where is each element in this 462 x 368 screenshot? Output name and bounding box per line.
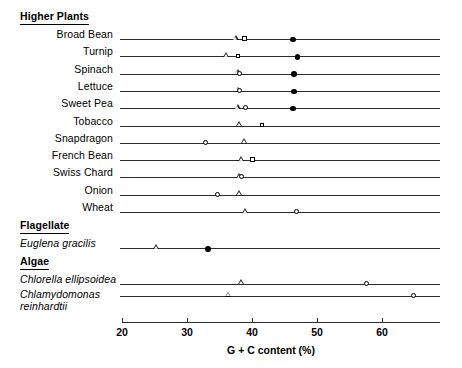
data-point-filled-circle xyxy=(290,106,296,112)
data-point-open-circle xyxy=(364,281,369,286)
data-point-open-square xyxy=(250,157,254,161)
row-baseline xyxy=(120,91,440,92)
data-row: Chlorella ellipsoidea xyxy=(0,273,462,289)
row-label: French Bean xyxy=(52,149,113,161)
data-point-open-triangle xyxy=(225,292,231,297)
data-point-open-triangle xyxy=(238,279,244,284)
data-point-open-circle xyxy=(237,71,242,76)
axis-tick-label: 50 xyxy=(311,326,323,338)
axis-tick xyxy=(252,318,253,323)
row-label: Tobacco xyxy=(73,115,113,127)
data-point-open-circle xyxy=(243,105,248,110)
data-row: Turnip xyxy=(0,45,462,61)
axis-tick-label: 60 xyxy=(376,326,388,338)
data-point-open-triangle xyxy=(242,208,248,213)
row-label: Onion xyxy=(84,184,113,196)
group-header-algae: Algae xyxy=(20,255,49,270)
data-row: Tobacco xyxy=(0,115,462,131)
data-point-open-triangle xyxy=(241,138,247,143)
axis-tick xyxy=(382,318,383,323)
group-header-underline xyxy=(20,233,69,234)
row-baseline xyxy=(120,108,440,109)
axis-tick-label: 30 xyxy=(181,326,193,338)
data-point-open-circle xyxy=(411,293,416,298)
data-point-open-triangle xyxy=(223,52,229,57)
row-baseline xyxy=(120,126,440,127)
group-header-underline xyxy=(20,269,49,270)
row-label: Turnip xyxy=(83,45,113,57)
group-header-label: Flagellate xyxy=(20,219,69,231)
data-point-filled-circle xyxy=(291,71,297,77)
axis-title: G + C content (%) xyxy=(227,344,315,356)
data-point-open-circle xyxy=(215,192,220,197)
axis-tick xyxy=(317,318,318,323)
row-baseline xyxy=(120,212,440,213)
row-label: Spinach xyxy=(74,63,113,75)
row-baseline xyxy=(120,143,440,144)
row-label: Chlamydomonas reinhardtii xyxy=(20,288,120,312)
data-point-open-triangle xyxy=(153,244,159,249)
axis-tick-label: 20 xyxy=(116,326,128,338)
data-point-open-square xyxy=(260,123,264,127)
row-baseline xyxy=(120,284,440,285)
row-baseline xyxy=(120,56,440,57)
row-label: Wheat xyxy=(82,201,113,213)
data-row: Snapdragon xyxy=(0,132,462,148)
row-baseline xyxy=(120,160,440,161)
axis-tick xyxy=(187,318,188,323)
row-baseline xyxy=(120,195,440,196)
data-point-open-triangle xyxy=(235,104,241,109)
axis-tick xyxy=(122,318,123,323)
row-label: Chlorella ellipsoidea xyxy=(20,273,116,285)
data-row: Euglena gracilis xyxy=(0,237,462,253)
group-header-flagellate: Flagellate xyxy=(20,219,69,234)
data-point-filled-circle xyxy=(295,54,301,60)
data-point-open-triangle xyxy=(238,156,244,161)
data-point-open-circle xyxy=(237,88,242,93)
data-row: Wheat xyxy=(0,201,462,217)
data-row: Onion xyxy=(0,184,462,200)
row-baseline xyxy=(120,74,440,75)
row-baseline xyxy=(120,248,440,249)
data-row: Chlamydomonas reinhardtii xyxy=(0,290,462,306)
group-header-label: Algae xyxy=(20,255,49,267)
axis-tick-label: 40 xyxy=(246,326,258,338)
data-row: Spinach xyxy=(0,63,462,79)
row-label: Euglena gracilis xyxy=(20,237,96,249)
data-point-filled-circle xyxy=(205,246,211,252)
data-point-open-circle xyxy=(239,174,244,179)
gc-content-chart: Higher PlantsBroad BeanTurnipSpinachLett… xyxy=(0,0,462,368)
row-label: Lettuce xyxy=(78,80,113,92)
row-label: Swiss Chard xyxy=(53,166,113,178)
data-point-open-circle xyxy=(294,209,299,214)
data-row: Swiss Chard xyxy=(0,166,462,182)
row-label: Sweet Pea xyxy=(61,97,113,109)
row-baseline xyxy=(120,177,440,178)
data-point-open-square xyxy=(236,54,240,58)
row-label: Snapdragon xyxy=(55,132,113,144)
data-point-open-circle xyxy=(203,140,208,145)
data-point-open-triangle xyxy=(236,190,242,195)
data-row: Sweet Pea xyxy=(0,97,462,113)
axis-line xyxy=(122,322,440,323)
x-axis: 2030405060G + C content (%) xyxy=(0,0,462,40)
data-point-filled-circle xyxy=(291,89,297,95)
row-baseline xyxy=(120,296,440,297)
data-row: Lettuce xyxy=(0,80,462,96)
data-row: French Bean xyxy=(0,149,462,165)
data-point-open-triangle xyxy=(236,121,242,126)
